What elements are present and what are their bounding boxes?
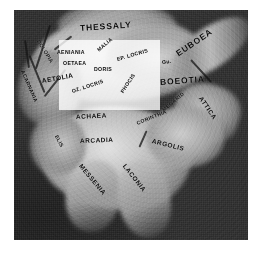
region-label-aeniania: AENIANIA (57, 50, 85, 55)
region-label-arcadia: ARCADIA (80, 137, 114, 145)
region-label-oetaea: OETAEA (63, 61, 86, 66)
region-label-doris: DORIS (94, 67, 112, 72)
greece-relief-map: THESSALYDOLOPIAAENIANIAMALIAEP. LOCRISGu… (14, 10, 248, 240)
map-figure: THESSALYDOLOPIAAENIANIAMALIAEP. LOCRISGu… (0, 0, 271, 264)
